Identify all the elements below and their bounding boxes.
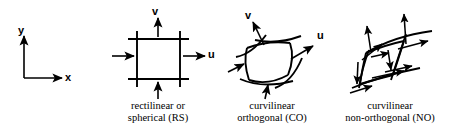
no-caption: curvilinear non-orthogonal (NO) [325, 100, 455, 123]
no-caption-line-1: curvilinear [325, 100, 455, 112]
co-arrow-bottom-face [265, 85, 268, 99]
rs-caption-line-2: spherical (RS) [98, 112, 218, 124]
rs-u-label: u [208, 49, 215, 60]
y-axis-label: y [18, 25, 24, 36]
co-u-label: u [317, 30, 324, 41]
rs-caption-line-1: rectilinear or [98, 100, 218, 112]
rs-cell-group [112, 18, 205, 99]
rs-caption: rectilinear or spherical (RS) [98, 100, 218, 123]
no-caption-line-2: non-orthogonal (NO) [325, 112, 455, 124]
co-arrow-left-face [228, 64, 244, 72]
co-grid-curves [236, 35, 302, 88]
co-cell-edge-top [247, 42, 290, 48]
no-arrow-lower-left-down [357, 62, 358, 84]
grid-cell-types-figure: y x v u v u rectilinear or spherical (RS… [0, 0, 455, 134]
rs-v-label: v [152, 6, 158, 17]
co-caption: curvilinear orthogonal (CO) [212, 100, 332, 123]
co-caption-line-2: orthogonal (CO) [212, 112, 332, 124]
no-arrow-upper-left-tangent [362, 44, 382, 60]
co-cell-group [228, 22, 313, 99]
rs-grid-lines [128, 31, 189, 87]
co-cell-edge-bottom [249, 75, 288, 82]
no-arrow-inner-right [371, 53, 389, 57]
no-grid-curves [352, 31, 432, 88]
no-face-arrows [350, 14, 428, 93]
rs-face-arrows [112, 18, 205, 99]
no-arrow-upper-left-normal [367, 26, 371, 52]
co-v-label: v [245, 10, 251, 21]
no-cell-group [350, 14, 432, 93]
cartesian-reference-axes [24, 36, 62, 78]
x-axis-label: x [65, 72, 71, 83]
co-arrow-right-face-u [291, 46, 313, 59]
co-caption-line-1: curvilinear [212, 100, 332, 112]
